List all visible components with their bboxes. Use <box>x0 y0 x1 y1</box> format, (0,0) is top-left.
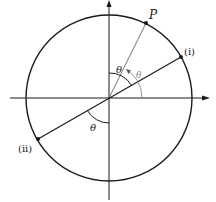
y-axis-arrow-icon <box>107 0 112 7</box>
point-i-dot <box>179 55 183 59</box>
label-i: (i) <box>184 46 195 57</box>
label-theta-upper: θ <box>116 64 122 75</box>
arc-arrow-icon <box>126 69 131 74</box>
point-ii-dot <box>36 137 40 141</box>
label-theta-arrow: θ <box>136 70 142 80</box>
label-p: P <box>148 8 158 22</box>
unit-circle-diagram: P (i) (ii) θ θ θ <box>0 0 216 202</box>
point-p-dot <box>144 21 148 25</box>
x-axis-arrow-icon <box>202 96 210 101</box>
angle-arc-right <box>137 80 142 98</box>
label-ii: (ii) <box>18 143 32 154</box>
label-theta-lower: θ <box>90 122 96 133</box>
